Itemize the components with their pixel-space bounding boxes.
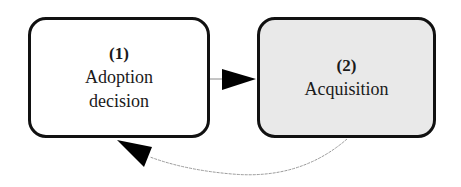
node-number: (2) bbox=[337, 55, 357, 77]
arrowhead-icon bbox=[222, 69, 256, 90]
node-adoption-decision: (1) Adoption decision bbox=[28, 17, 210, 138]
node-label-line: Adoption bbox=[85, 65, 153, 89]
arrowhead-icon bbox=[117, 140, 152, 167]
node-number: (1) bbox=[109, 43, 129, 65]
node-label-line: Acquisition bbox=[305, 77, 389, 101]
edge-acquisition-to-adoption bbox=[150, 139, 347, 175]
node-acquisition: (2) Acquisition bbox=[257, 17, 436, 138]
node-label-line: decision bbox=[89, 89, 149, 113]
